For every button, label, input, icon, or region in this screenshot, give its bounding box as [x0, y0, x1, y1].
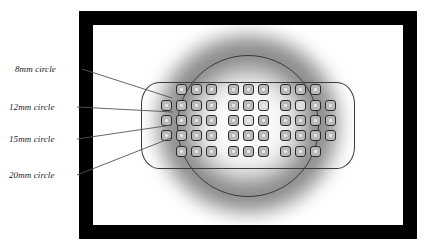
key-pip	[262, 88, 265, 91]
keypad-key[interactable]	[206, 84, 217, 95]
key-pip	[247, 119, 250, 122]
key-pip	[284, 150, 287, 153]
key-pip	[195, 119, 198, 122]
keypad-key[interactable]	[191, 146, 202, 157]
keypad-key[interactable]	[325, 100, 336, 111]
key-pip	[299, 104, 302, 107]
keypad-key[interactable]	[258, 130, 269, 141]
key-pip	[329, 104, 332, 107]
keypad-key[interactable]	[206, 100, 217, 111]
keypad-key[interactable]	[325, 115, 336, 126]
key-pip	[210, 104, 213, 107]
key-pip	[247, 104, 250, 107]
key-pip	[329, 134, 332, 137]
key-pip	[314, 119, 317, 122]
label-15mm-circle: 15mm circle	[9, 134, 55, 144]
keypad-key[interactable]	[295, 115, 306, 126]
key-pip	[195, 88, 198, 91]
keypad-key[interactable]	[206, 115, 217, 126]
keypad-key[interactable]	[228, 100, 239, 111]
keypad-row	[141, 114, 355, 127]
key-pip	[210, 88, 213, 91]
keypad-key[interactable]	[295, 100, 306, 111]
key-pip	[210, 150, 213, 153]
key-pip	[180, 134, 183, 137]
key-pip	[262, 150, 265, 153]
keypad-key[interactable]	[191, 115, 202, 126]
key-pip	[247, 88, 250, 91]
key-pip	[284, 134, 287, 137]
keypad-key[interactable]	[280, 100, 291, 111]
key-pip	[247, 150, 250, 153]
keypad-key[interactable]	[295, 84, 306, 95]
key-pip	[299, 88, 302, 91]
key-pip	[180, 104, 183, 107]
keypad-key[interactable]	[176, 84, 187, 95]
keypad-key[interactable]	[243, 100, 254, 111]
keypad-key[interactable]	[243, 130, 254, 141]
label-20mm-circle: 20mm circle	[9, 170, 55, 180]
keypad-key[interactable]	[206, 146, 217, 157]
key-pip	[314, 104, 317, 107]
keypad-key[interactable]	[191, 130, 202, 141]
keypad-key[interactable]	[258, 84, 269, 95]
keypad-key[interactable]	[228, 130, 239, 141]
keypad-key[interactable]	[280, 146, 291, 157]
keypad-key[interactable]	[176, 100, 187, 111]
keypad-key[interactable]	[228, 84, 239, 95]
key-pip	[299, 134, 302, 137]
keypad-key[interactable]	[243, 146, 254, 157]
keypad-key[interactable]	[161, 130, 172, 141]
keypad-key[interactable]	[310, 130, 321, 141]
key-pip	[210, 119, 213, 122]
key-pip	[284, 88, 287, 91]
keypad-key[interactable]	[176, 146, 187, 157]
keypad-key[interactable]	[176, 115, 187, 126]
key-pip	[299, 119, 302, 122]
key-pip	[195, 134, 198, 137]
key-pip	[165, 119, 168, 122]
keypad-key[interactable]	[258, 115, 269, 126]
figure-canvas: 8mm circle 12mm circle 15mm circle 20mm …	[0, 0, 426, 250]
key-pip	[262, 134, 265, 137]
key-pip	[180, 119, 183, 122]
keypad-key[interactable]	[280, 115, 291, 126]
keypad-row	[141, 129, 355, 142]
keypad-key[interactable]	[310, 84, 321, 95]
key-pip	[284, 104, 287, 107]
key-pip	[232, 88, 235, 91]
key-pip	[232, 104, 235, 107]
key-pip	[314, 134, 317, 137]
keypad-key[interactable]	[310, 146, 321, 157]
keypad-key[interactable]	[295, 146, 306, 157]
key-pip	[165, 134, 168, 137]
key-pip	[247, 134, 250, 137]
frame-inner-area	[93, 25, 403, 225]
key-pip	[195, 150, 198, 153]
keypad-key[interactable]	[206, 130, 217, 141]
keypad-key[interactable]	[258, 100, 269, 111]
keypad-key[interactable]	[161, 100, 172, 111]
keypad-key[interactable]	[161, 115, 172, 126]
key-pip	[314, 150, 317, 153]
keypad-key[interactable]	[325, 130, 336, 141]
keypad-key[interactable]	[258, 146, 269, 157]
keypad-key[interactable]	[295, 130, 306, 141]
keypad-key[interactable]	[176, 130, 187, 141]
keypad-key[interactable]	[280, 84, 291, 95]
keypad-row	[141, 145, 355, 158]
key-pip	[299, 150, 302, 153]
keypad-row	[141, 83, 355, 96]
keypad-key[interactable]	[280, 130, 291, 141]
keypad-key[interactable]	[228, 146, 239, 157]
keypad-key[interactable]	[310, 100, 321, 111]
keypad-key[interactable]	[191, 100, 202, 111]
keypad-key[interactable]	[243, 115, 254, 126]
keypad-key[interactable]	[228, 115, 239, 126]
keypad-key[interactable]	[310, 115, 321, 126]
key-pip	[314, 88, 317, 91]
keypad-row	[141, 99, 355, 112]
keypad-key[interactable]	[191, 84, 202, 95]
keypad-key[interactable]	[243, 84, 254, 95]
key-pip	[262, 119, 265, 122]
